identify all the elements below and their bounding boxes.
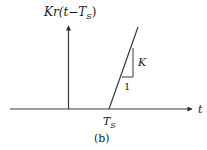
y-label-close: ) <box>92 5 97 19</box>
y-label-prefix: Kr( <box>43 5 64 19</box>
y-axis-label: Kr(t−TS) <box>43 5 96 21</box>
figure-caption: (b) <box>94 132 110 145</box>
slope-run-label: 1 <box>124 81 130 92</box>
slope-rise-label: K <box>137 56 147 69</box>
ramp-line <box>109 27 138 109</box>
slope-triangle <box>122 48 133 77</box>
x-axis-label: t <box>198 103 203 116</box>
ramp-start-subscript: S <box>110 121 116 130</box>
ramp-start-label: TS <box>103 115 116 130</box>
ramp-function-diagram: Kr(t−TS) t K 1 TS (b) <box>0 0 207 150</box>
y-label-minus: − <box>68 5 78 19</box>
